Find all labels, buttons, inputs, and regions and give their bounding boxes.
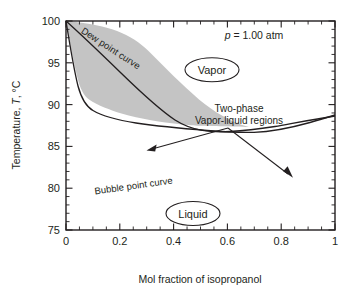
liquid-label-text: Liquid: [178, 208, 207, 220]
x-tick-label: 0.4: [166, 235, 181, 247]
pressure-value: = 1.00 atm: [231, 29, 284, 41]
y-tick-label: 85: [48, 140, 60, 152]
y-axis-title: Temperature, T, °C: [10, 80, 22, 169]
phase-diagram-figure: 100 95 90 85 80 75 0 0.2 0.4 0.6 0.8 1 M…: [0, 0, 349, 298]
y-tick-label: 75: [48, 224, 60, 236]
y-tick-label: 100: [42, 15, 60, 27]
two-phase-label-line1: Two-phase: [215, 103, 264, 114]
y-tick-label: 90: [48, 99, 60, 111]
x-axis-title: Mol fraction of isopropanol: [138, 273, 261, 285]
y-tick-label: 95: [48, 57, 60, 69]
x-tick-label: 0.6: [220, 235, 235, 247]
x-tick-label: 1: [332, 235, 338, 247]
y-tick-label: 80: [48, 182, 60, 194]
x-tick-label: 0.8: [274, 235, 289, 247]
x-tick-label: 0.2: [112, 235, 127, 247]
vapor-label-text: Vapor: [198, 64, 227, 76]
two-phase-label-line2: Vapor-liquid regions: [195, 115, 283, 126]
pressure-annotation: p = 1.00 atm: [224, 29, 284, 41]
x-tick-label: 0: [63, 235, 69, 247]
